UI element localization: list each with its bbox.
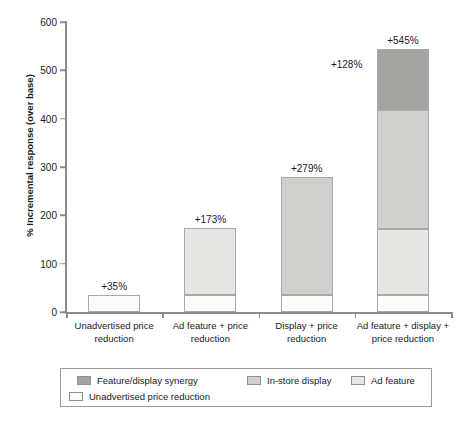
bar-segment[interactable] <box>377 110 429 228</box>
legend-item[interactable]: Feature/display synergy <box>77 372 198 388</box>
y-axis-title: % Incremental response (over base) <box>24 31 35 281</box>
x-tick-mark <box>259 312 261 318</box>
legend-item[interactable]: Unadvertised price reduction <box>69 388 210 404</box>
legend-color-swatch <box>247 376 261 385</box>
x-tick-mark <box>66 312 68 318</box>
bar-group[interactable]: +173% <box>184 22 236 312</box>
bar-segment[interactable] <box>281 295 333 312</box>
legend-row-primary: Feature/display synergyIn-store displayA… <box>61 372 431 388</box>
legend-item[interactable]: In-store display <box>247 372 331 388</box>
x-tick-mark <box>162 312 164 318</box>
bar-series-group: +35%+173%+279%+545%+128% <box>66 22 451 312</box>
legend-color-swatch <box>69 392 83 401</box>
x-axis-category-label: Display + price reduction <box>255 320 359 345</box>
bar-group[interactable]: +545% <box>377 22 429 312</box>
bar-total-label: +173% <box>195 214 226 225</box>
bar-segment[interactable] <box>377 49 429 111</box>
bar-annotation-label: +128% <box>331 59 362 70</box>
bar-segment[interactable] <box>377 295 429 312</box>
chart-container: % Incremental response (over base) 01002… <box>0 0 461 429</box>
bar-segment[interactable] <box>377 229 429 295</box>
legend-label: Unadvertised price reduction <box>89 391 210 402</box>
legend-label: In-store display <box>267 375 331 386</box>
bar-total-label: +545% <box>387 35 418 46</box>
bar-segment[interactable] <box>184 295 236 312</box>
x-axis-category-label: Unadvertised price reduction <box>62 320 166 345</box>
legend-color-swatch <box>351 376 365 385</box>
legend-label: Ad feature <box>371 375 415 386</box>
bar-group[interactable]: +35% <box>88 22 140 312</box>
bar-total-label: +35% <box>101 281 127 292</box>
plot-area: 0100200300400500600 +35%+173%+279%+545%+… <box>66 22 451 312</box>
bar-segment[interactable] <box>184 228 236 295</box>
bar-segment[interactable] <box>281 177 333 295</box>
chart-legend: Feature/display synergyIn-store displayA… <box>60 368 432 407</box>
bar-group[interactable]: +279% <box>281 22 333 312</box>
x-axis-category-label: Ad feature + display + price reduction <box>351 320 455 345</box>
x-axis-category-label: Ad feature + price reduction <box>158 320 262 345</box>
legend-row-secondary: Unadvertised price reduction <box>61 388 431 404</box>
x-tick-mark <box>451 312 453 318</box>
x-axis-category-labels: Unadvertised price reductionAd feature +… <box>66 320 451 354</box>
x-tick-mark <box>355 312 357 318</box>
legend-color-swatch <box>77 376 91 385</box>
bar-total-label: +279% <box>291 163 322 174</box>
legend-item[interactable]: Ad feature <box>351 372 415 388</box>
legend-label: Feature/display synergy <box>97 375 198 386</box>
bar-segment[interactable] <box>88 295 140 312</box>
